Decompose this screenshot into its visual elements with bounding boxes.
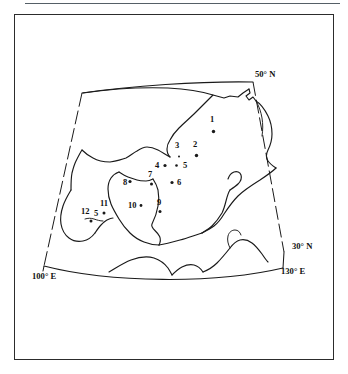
- axis-label-lat-50n: 50° N: [255, 69, 276, 79]
- site-point-12[interactable]: [90, 220, 93, 223]
- mark-5-glyph: 5: [94, 208, 98, 218]
- site-labels-group: 1234567891011125: [81, 114, 214, 218]
- site-label-12: 12: [81, 206, 90, 216]
- site-label-5: 5: [183, 160, 187, 170]
- site-label-9: 9: [157, 197, 161, 207]
- site-point-3[interactable]: [178, 156, 180, 158]
- meridian-130e: [253, 82, 284, 252]
- south-east-coast: [203, 240, 268, 272]
- site-point-10[interactable]: [140, 204, 143, 207]
- axis-label-lat-30n: 30° N: [292, 241, 313, 251]
- axis-label-lon-100e: 100° E: [32, 271, 56, 281]
- south-coast-bay-west: [109, 257, 172, 275]
- graticule-boundary: [43, 82, 284, 280]
- west-lake-outline: [61, 190, 95, 241]
- parallel-30n: [44, 266, 283, 279]
- figure-page: 1234567891011125 50° N30° N130° E100° E: [0, 0, 348, 374]
- site-label-8: 8: [123, 177, 127, 187]
- site-point-5[interactable]: [175, 164, 178, 167]
- site-label-4: 4: [155, 160, 160, 170]
- site-label-1: 1: [210, 114, 214, 124]
- map-graphic: 1234567891011125 50° N30° N130° E100° E: [0, 0, 348, 374]
- site-label-11: 11: [100, 198, 108, 208]
- yellow-sea-south-coast: [159, 233, 202, 245]
- korea-north-hook: [228, 172, 241, 190]
- site-point-2[interactable]: [195, 154, 198, 157]
- site-point-9[interactable]: [159, 210, 162, 213]
- site-label-3: 3: [175, 140, 179, 150]
- site-point-8[interactable]: [128, 180, 131, 183]
- coast-wiggle-site12: [85, 218, 103, 221]
- coastline-group: [61, 88, 276, 275]
- axis-label-lon-130e: 130° E: [281, 266, 305, 276]
- site-label-7: 7: [148, 169, 153, 179]
- island-hainan-like: [228, 230, 241, 248]
- site-point-6[interactable]: [170, 181, 173, 184]
- site-label-10: 10: [128, 200, 137, 210]
- south-coast-bay-east: [172, 265, 203, 275]
- axis-labels-group: 50° N30° N130° E100° E: [32, 69, 313, 281]
- border-ne-china: [167, 95, 213, 157]
- site-label-2: 2: [193, 139, 197, 149]
- site-point-7[interactable]: [150, 183, 153, 186]
- site-point-1[interactable]: [212, 130, 215, 133]
- border-west: [71, 150, 82, 190]
- site-point-11[interactable]: [103, 212, 106, 215]
- site-label-6: 6: [177, 177, 181, 187]
- site-point-4[interactable]: [163, 164, 166, 167]
- primorye-coast: [202, 168, 276, 233]
- meridian-100e: [44, 93, 82, 266]
